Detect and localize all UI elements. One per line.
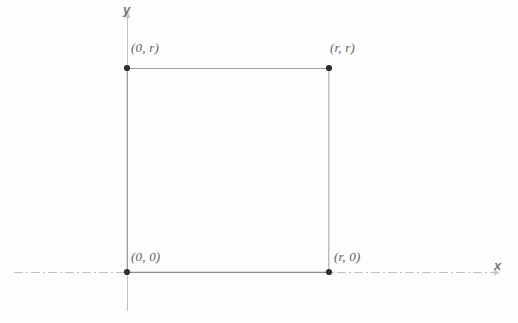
vertex-label-top-right: (r, r) — [330, 40, 355, 56]
y-axis-label: y — [123, 2, 130, 17]
vertex-label-bottom-left: (0, 0) — [131, 249, 160, 265]
vertex-label-top-left: (0, r) — [131, 40, 159, 56]
vertex-dot-top-right — [326, 65, 332, 71]
vertex-dot-bottom-left — [124, 269, 130, 275]
x-axis-label: x — [494, 258, 501, 273]
figure-canvas: (0, r) (r, r) (0, 0) (r, 0) y x — [0, 0, 518, 323]
diagram-svg — [0, 0, 518, 323]
vertex-dot-bottom-right — [326, 269, 332, 275]
vertex-label-bottom-right: (r, 0) — [334, 249, 360, 265]
vertex-dot-top-left — [124, 65, 130, 71]
